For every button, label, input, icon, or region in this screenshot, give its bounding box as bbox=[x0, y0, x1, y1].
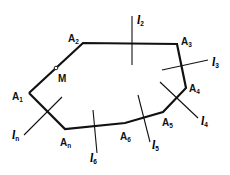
line-label-l2: l2 bbox=[137, 13, 144, 27]
vertex-label-a2: A2 bbox=[68, 33, 79, 45]
line-l6 bbox=[93, 110, 97, 153]
line-l3 bbox=[162, 60, 208, 70]
line-label-l6: l6 bbox=[90, 151, 97, 165]
polygon-diagram: l2l3l4l5l6ln A1A2A3A4A5A6An M bbox=[0, 0, 230, 175]
line-label-l5: l5 bbox=[152, 138, 159, 152]
vertex-label-a6: A6 bbox=[120, 131, 131, 143]
point-m: M bbox=[54, 66, 66, 84]
line-ln bbox=[24, 97, 62, 135]
vertex-label-a1: A1 bbox=[12, 91, 23, 103]
vertex-label-a5: A5 bbox=[162, 117, 173, 129]
line-label-l3: l3 bbox=[212, 55, 219, 69]
vertex-label-a3: A3 bbox=[181, 36, 192, 48]
point-m-marker bbox=[54, 66, 58, 70]
vertex-labels: A1A2A3A4A5A6An bbox=[12, 33, 200, 149]
line-label-ln: ln bbox=[12, 128, 19, 142]
vertex-label-an: An bbox=[60, 137, 71, 149]
vertex-label-a4: A4 bbox=[189, 83, 200, 95]
line-label-l4: l4 bbox=[201, 114, 208, 128]
point-m-label: M bbox=[58, 73, 66, 84]
